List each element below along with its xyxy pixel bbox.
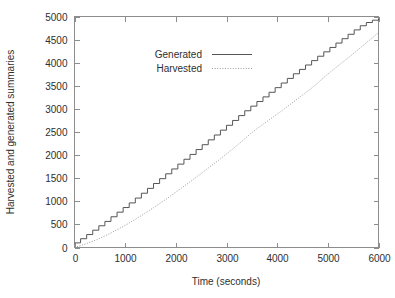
- x-tick-label: 6000: [368, 253, 391, 264]
- y-tick-label: 5000: [45, 12, 68, 23]
- y-tick-label: 2000: [45, 150, 68, 161]
- x-tick-label: 3000: [216, 253, 239, 264]
- y-tick-label: 3000: [45, 104, 68, 115]
- legend-label-generated: Generated: [155, 49, 202, 60]
- x-tick-label: 0: [73, 253, 79, 264]
- x-tick-label: 5000: [317, 253, 340, 264]
- y-tick-label: 4500: [45, 35, 68, 46]
- y-tick-label: 4000: [45, 58, 68, 69]
- x-tick-label: 1000: [114, 253, 137, 264]
- legend-label-harvested: Harvested: [156, 63, 202, 74]
- chart-figure: 0500100015002000250030003500400045005000…: [0, 0, 395, 298]
- y-axis-title: Harvested and generated summaries: [5, 50, 16, 215]
- y-tick-label: 2500: [45, 127, 68, 138]
- y-tick-label: 1500: [45, 173, 68, 184]
- y-tick-label: 0: [62, 243, 68, 254]
- y-tick-label: 1000: [45, 196, 68, 207]
- y-tick-label: 500: [51, 219, 68, 230]
- y-tick-label: 3500: [45, 81, 68, 92]
- line-chart: 0500100015002000250030003500400045005000…: [0, 0, 395, 298]
- x-axis-title: Time (seconds): [192, 276, 261, 287]
- x-tick-label: 4000: [266, 253, 289, 264]
- x-tick-label: 2000: [165, 253, 188, 264]
